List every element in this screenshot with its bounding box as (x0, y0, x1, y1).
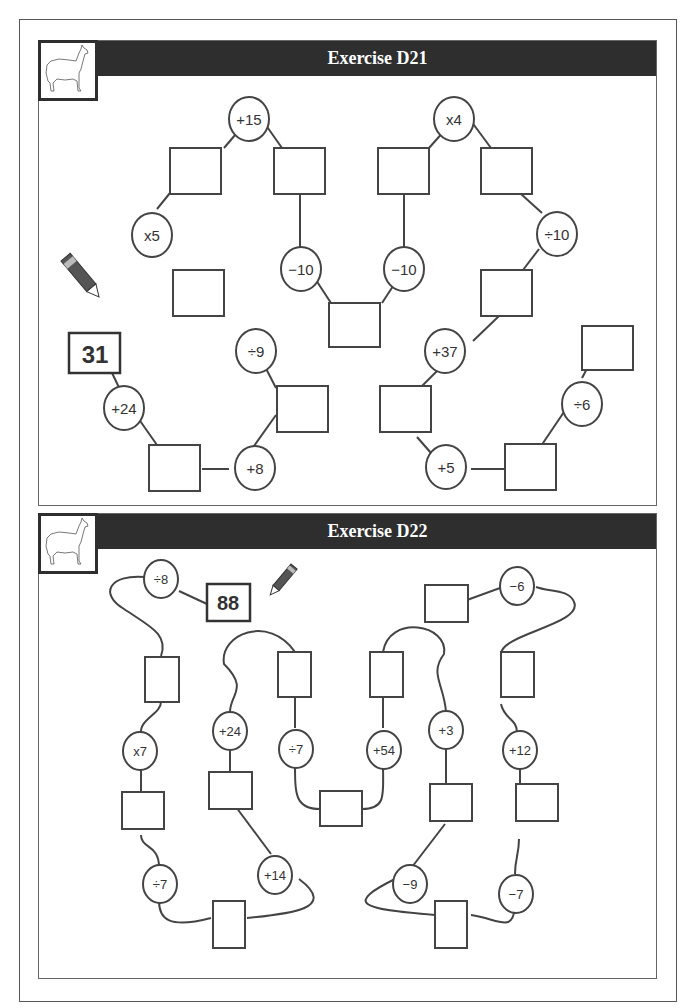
exercise-d22-panel: Exercise D22 (38, 513, 657, 979)
operation-label: +24 (111, 400, 136, 417)
exercise-d21-diagram: 31 +24 +8 ÷9 x5 +15 −10 (39, 41, 658, 507)
start-value: 88 (217, 592, 239, 614)
operation-label: −10 (288, 261, 313, 278)
operation-label: +3 (439, 723, 454, 738)
operation-label: ÷7 (153, 877, 167, 892)
operation-label: ÷6 (574, 396, 591, 413)
operation-label: +14 (264, 868, 286, 883)
operation-label: ÷9 (248, 343, 265, 360)
operation-label: −9 (403, 877, 418, 892)
operation-label: x4 (446, 111, 462, 128)
operation-label: −6 (510, 579, 525, 594)
operation-label: +24 (219, 724, 241, 739)
operation-label: +12 (509, 743, 531, 758)
operation-label: ÷8 (154, 572, 168, 587)
operation-label: −7 (509, 887, 524, 902)
pencil-icon (267, 564, 297, 597)
operation-label: +37 (432, 343, 457, 360)
start-value: 31 (82, 341, 109, 368)
operation-label: +15 (236, 111, 261, 128)
pencil-icon (61, 253, 104, 301)
operation-label: x5 (144, 227, 160, 244)
operation-label: +5 (437, 459, 454, 476)
operation-label: +8 (246, 460, 263, 477)
operation-label: ÷7 (289, 742, 303, 757)
operation-label: +54 (373, 743, 395, 758)
operation-label: −10 (391, 261, 416, 278)
exercise-d22-diagram: 88 ÷8 x7 ÷7 +14 +24 ÷7 +54 (39, 514, 658, 980)
exercise-d21-panel: Exercise D21 (38, 40, 657, 506)
operation-label: x7 (133, 744, 147, 759)
operation-label: ÷10 (545, 226, 570, 243)
